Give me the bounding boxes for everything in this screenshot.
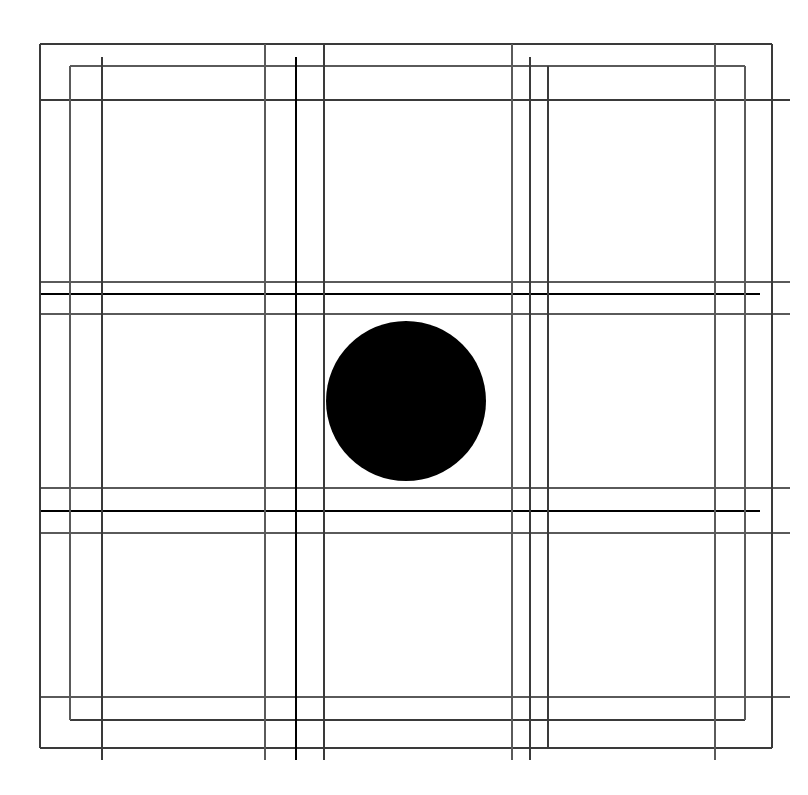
artboard [0,0,808,795]
center-circle [326,321,486,481]
center-circle-group [326,321,486,481]
geometric-grid-drawing [0,0,808,795]
